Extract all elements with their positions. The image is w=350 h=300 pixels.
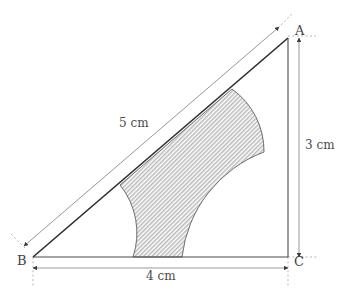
dimension-label-hypotenuse: 5 cm [119,117,149,129]
dimension-label-horizontal: 4 cm [146,270,176,282]
vertex-label-c: C [294,255,304,268]
extension-line-b-diagonal [11,234,25,248]
vertex-label-b: B [17,254,27,267]
extension-line-a-diagonal [278,13,293,28]
geometry-figure: A B C 5 cm 3 cm 4 cm [0,0,350,300]
shaded-region [120,89,264,257]
shaded-region-group [120,89,264,257]
vertex-label-a: A [295,24,304,37]
dimension-label-vertical: 3 cm [305,139,335,151]
